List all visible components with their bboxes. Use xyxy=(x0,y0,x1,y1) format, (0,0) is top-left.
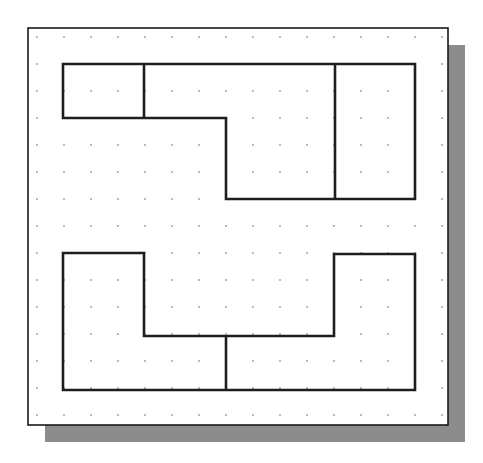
grid-dot xyxy=(63,198,65,200)
grid-dot xyxy=(171,171,173,173)
grid-dot xyxy=(225,306,227,308)
grid-dot xyxy=(171,90,173,92)
grid-dot xyxy=(36,252,38,254)
grid-dot xyxy=(252,171,254,173)
grid-dot xyxy=(441,252,443,254)
grid-dot xyxy=(387,171,389,173)
grid-dot xyxy=(306,171,308,173)
grid-dot xyxy=(279,414,281,416)
grid-dot xyxy=(387,36,389,38)
grid-dot xyxy=(279,117,281,119)
grid-dot xyxy=(279,252,281,254)
grid-dot xyxy=(90,171,92,173)
grid-dot xyxy=(252,360,254,362)
grid-dot xyxy=(306,90,308,92)
grid-dot xyxy=(198,198,200,200)
grid-dot xyxy=(171,252,173,254)
grid-dot xyxy=(144,414,146,416)
grid-dot xyxy=(36,414,38,416)
grid-dot xyxy=(279,333,281,335)
grid-dot xyxy=(441,279,443,281)
grid-dot xyxy=(387,306,389,308)
grid-dot xyxy=(198,306,200,308)
grid-dot xyxy=(198,225,200,227)
grid-dot xyxy=(36,333,38,335)
grid-dot xyxy=(63,414,65,416)
grid-dot xyxy=(252,279,254,281)
grid-dot xyxy=(279,387,281,389)
grid-dot xyxy=(117,387,119,389)
grid-dot xyxy=(387,414,389,416)
grid-dot xyxy=(117,360,119,362)
grid-dot xyxy=(252,306,254,308)
grid-dot xyxy=(36,36,38,38)
grid-dot xyxy=(36,387,38,389)
grid-dot xyxy=(144,225,146,227)
grid-dot xyxy=(36,63,38,65)
grid-dot xyxy=(306,306,308,308)
grid-dot xyxy=(171,198,173,200)
grid-dot xyxy=(441,171,443,173)
grid-dot xyxy=(225,36,227,38)
grid-dot xyxy=(144,198,146,200)
grid-dot xyxy=(387,279,389,281)
grid-dot xyxy=(387,144,389,146)
grid-dot xyxy=(63,225,65,227)
grid-dot xyxy=(90,36,92,38)
grid-dot xyxy=(333,387,335,389)
grid-dot xyxy=(171,387,173,389)
grid-dot xyxy=(63,36,65,38)
grid-dot xyxy=(117,144,119,146)
grid-dot xyxy=(306,36,308,38)
grid-dot xyxy=(441,36,443,38)
grid-dot xyxy=(171,225,173,227)
grid-dot xyxy=(360,144,362,146)
grid-dot xyxy=(225,90,227,92)
grid-dot xyxy=(333,414,335,416)
grid-dot xyxy=(36,225,38,227)
grid-dot xyxy=(414,225,416,227)
grid-dot xyxy=(306,144,308,146)
grid-dot xyxy=(252,225,254,227)
grid-dot xyxy=(63,171,65,173)
grid-dot xyxy=(90,198,92,200)
grid-dot xyxy=(198,144,200,146)
grid-dot xyxy=(90,387,92,389)
grid-dot xyxy=(198,414,200,416)
grid-dot xyxy=(360,279,362,281)
grid-dot xyxy=(306,360,308,362)
grid-dot xyxy=(441,333,443,335)
grid-dot xyxy=(225,252,227,254)
grid-dot xyxy=(441,117,443,119)
grid-dot xyxy=(171,144,173,146)
grid-dot xyxy=(117,414,119,416)
grid-dot xyxy=(90,333,92,335)
grid-dot xyxy=(387,90,389,92)
grid-dot xyxy=(90,225,92,227)
grid-dot xyxy=(36,360,38,362)
grid-dot xyxy=(441,198,443,200)
grid-dot xyxy=(360,90,362,92)
grid-dot xyxy=(144,387,146,389)
grid-dot xyxy=(414,36,416,38)
grid-dot xyxy=(441,225,443,227)
grid-dot xyxy=(252,90,254,92)
grid-dot xyxy=(306,414,308,416)
grid-dot xyxy=(36,279,38,281)
grid-dot xyxy=(279,144,281,146)
grid-dot xyxy=(90,360,92,362)
grid-dot xyxy=(117,198,119,200)
grid-dot xyxy=(279,225,281,227)
grid-dot xyxy=(306,117,308,119)
grid-dot xyxy=(36,171,38,173)
grid-dot xyxy=(90,144,92,146)
grid-dot xyxy=(36,198,38,200)
grid-dot xyxy=(279,171,281,173)
grid-dot xyxy=(144,360,146,362)
grid-dot xyxy=(36,306,38,308)
grid-dot xyxy=(306,387,308,389)
grid-dot xyxy=(333,225,335,227)
grid-dot xyxy=(225,333,227,335)
grid-dot xyxy=(225,414,227,416)
grid-dot xyxy=(387,117,389,119)
